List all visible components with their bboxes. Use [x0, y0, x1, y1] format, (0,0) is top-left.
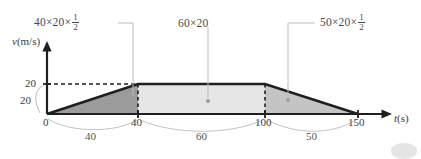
fraction-denominator: 2: [72, 22, 79, 32]
velocity-time-graph-figure: 40×20× 1 2 60×20 50×20× 1 2 v(m/s) t(s) …: [0, 0, 421, 159]
annotation-left-area: 40×20× 1 2: [34, 13, 79, 33]
y-span-brace: [36, 85, 44, 113]
x-span-label-40: 40: [85, 131, 96, 142]
x-tick-label-150: 150: [348, 117, 365, 128]
x-span-label-60: 60: [196, 131, 207, 142]
leader-line-right-area: [288, 23, 315, 97]
fraction-numerator: 1: [358, 13, 365, 22]
x-span-brace-40: [48, 119, 137, 130]
annotation-right-area-expression: 50×20×: [320, 17, 357, 29]
fraction-numerator: 1: [72, 13, 79, 22]
x-tick-label-100: 100: [255, 117, 272, 128]
x-span-label-50: 50: [306, 131, 317, 142]
watermark-badge: [391, 143, 417, 159]
leader-dot-left-area: [131, 97, 135, 101]
x-tick-label-0: 0: [43, 117, 49, 128]
y-span-label-20: 20: [20, 95, 31, 106]
annotation-middle-area-expression: 60×20: [178, 18, 209, 30]
x-axis-arrowhead: [382, 109, 393, 118]
annotation-left-area-fraction: 1 2: [72, 13, 79, 33]
leader-dot-right-area: [286, 98, 290, 102]
annotation-left-area-expression: 40×20×: [34, 17, 71, 29]
y-axis-arrowhead: [42, 41, 51, 52]
annotation-middle-area: 60×20: [178, 14, 209, 30]
annotation-right-area: 50×20× 1 2: [320, 13, 365, 33]
x-axis-label: t(s): [394, 113, 409, 124]
fraction-denominator: 2: [358, 22, 365, 32]
constant-velocity-rectangle-region: [138, 84, 265, 114]
y-axis-label-unit: (m/s): [17, 35, 40, 47]
y-tick-label-20: 20: [25, 78, 36, 89]
x-tick-label-40: 40: [131, 117, 142, 128]
annotation-right-area-fraction: 1 2: [358, 13, 365, 33]
leader-dot-middle-area: [206, 99, 210, 103]
y-axis-label: v(m/s): [12, 36, 40, 47]
x-axis-label-unit: (s): [397, 112, 409, 124]
